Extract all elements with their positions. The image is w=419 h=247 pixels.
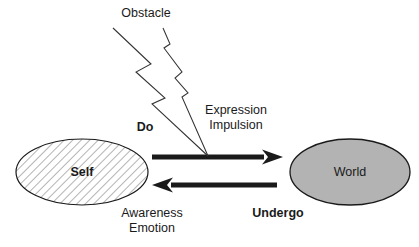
bolt-stroke-right bbox=[163, 28, 208, 156]
label-awareness-emotion: Awareness Emotion bbox=[112, 206, 192, 237]
label-awareness: Awareness bbox=[112, 206, 192, 221]
undergo-arrow-head bbox=[152, 178, 173, 193]
do-arrow-head bbox=[262, 150, 283, 165]
diagram-canvas: Obstacle Expression Impulsion Do Self Wo… bbox=[0, 0, 419, 247]
do-arrow[interactable] bbox=[152, 150, 283, 165]
undergo-arrow[interactable] bbox=[152, 178, 277, 193]
label-do: Do bbox=[0, 120, 290, 135]
undergo-arrow-shaft bbox=[171, 183, 277, 188]
label-obstacle: Obstacle bbox=[0, 6, 292, 21]
bolt-stroke-left bbox=[113, 28, 208, 156]
label-expression: Expression bbox=[200, 103, 272, 118]
label-undergo: Undergo bbox=[244, 206, 312, 221]
obstacle-lightning-bolt-icon bbox=[113, 28, 208, 156]
label-world: World bbox=[290, 165, 410, 180]
label-self: Self bbox=[16, 165, 148, 180]
label-emotion: Emotion bbox=[112, 221, 192, 236]
